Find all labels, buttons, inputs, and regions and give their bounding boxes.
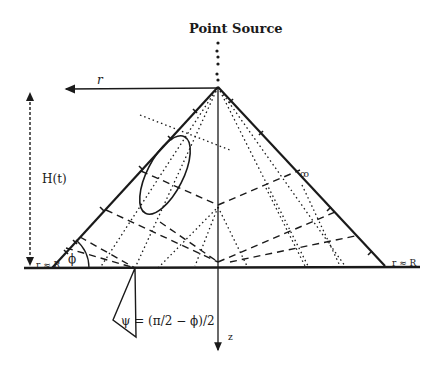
phi-angle-arc (76, 240, 89, 268)
right-side-marker: ꝏ (300, 169, 309, 179)
height-label: H(t) (42, 172, 67, 186)
height-arrow-bottom-icon (26, 257, 34, 266)
right-base-tag: r ≈ R (392, 258, 417, 268)
z-axis-label: z (228, 332, 233, 342)
height-arrow-top-icon (26, 92, 34, 101)
left-base-tag: r ≈ R (36, 260, 61, 270)
beam-ellipse (129, 129, 200, 222)
point-source-cone-diagram: Point Source r H(t) ꝏ z (0, 0, 440, 371)
psi-equation: ψ = (π/2 − ϕ)/2 (121, 314, 215, 328)
ground-surface (24, 267, 420, 268)
phi-label: ϕ (68, 252, 76, 266)
radius-arrow (66, 88, 218, 89)
source-dots (215, 41, 219, 81)
title-point-source: Point Source (189, 21, 283, 36)
radius-label: r (97, 73, 104, 87)
